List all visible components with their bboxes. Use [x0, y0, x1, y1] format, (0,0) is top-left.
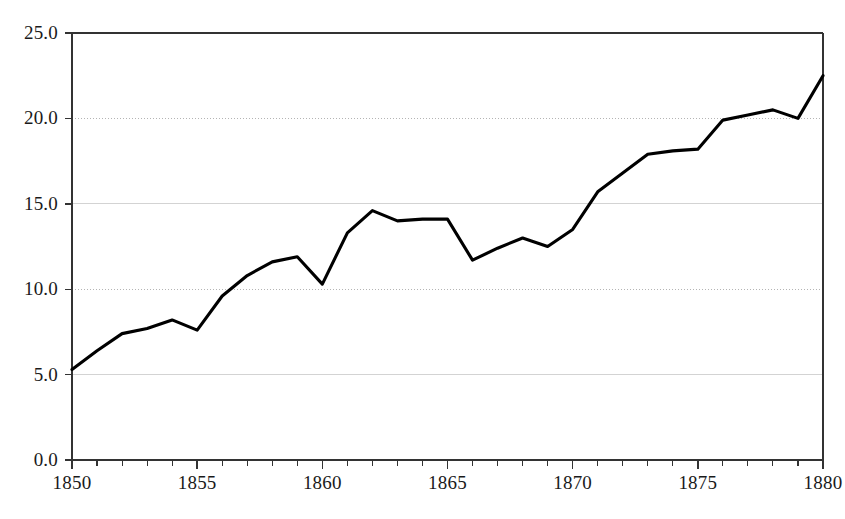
line-chart-plot [0, 0, 845, 519]
chart-figure: 0.05.010.015.020.025.0 18501855186018651… [0, 0, 845, 519]
y-axis-tick-label: 5.0 [0, 364, 58, 386]
x-axis-tick-label: 1850 [53, 472, 92, 494]
y-axis-tick-label: 10.0 [0, 278, 58, 300]
x-axis-tick-label: 1855 [178, 472, 217, 494]
y-axis-tick-label: 0.0 [0, 449, 58, 471]
y-axis-tick-label: 25.0 [0, 22, 58, 44]
x-axis-tick-label: 1865 [428, 472, 467, 494]
axis-ticks [65, 33, 823, 469]
x-axis-tick-label: 1875 [678, 472, 717, 494]
data-line-series-1 [72, 76, 823, 370]
x-axis-tick-label: 1860 [303, 472, 342, 494]
figure-caption [18, 503, 828, 519]
x-axis-tick-label: 1880 [804, 472, 843, 494]
chart-axes [72, 33, 823, 460]
y-axis-tick-label: 15.0 [0, 193, 58, 215]
x-axis-tick-label: 1870 [553, 472, 592, 494]
y-axis-tick-label: 20.0 [0, 107, 58, 129]
gridlines [72, 33, 823, 375]
data-series-line [72, 76, 823, 370]
